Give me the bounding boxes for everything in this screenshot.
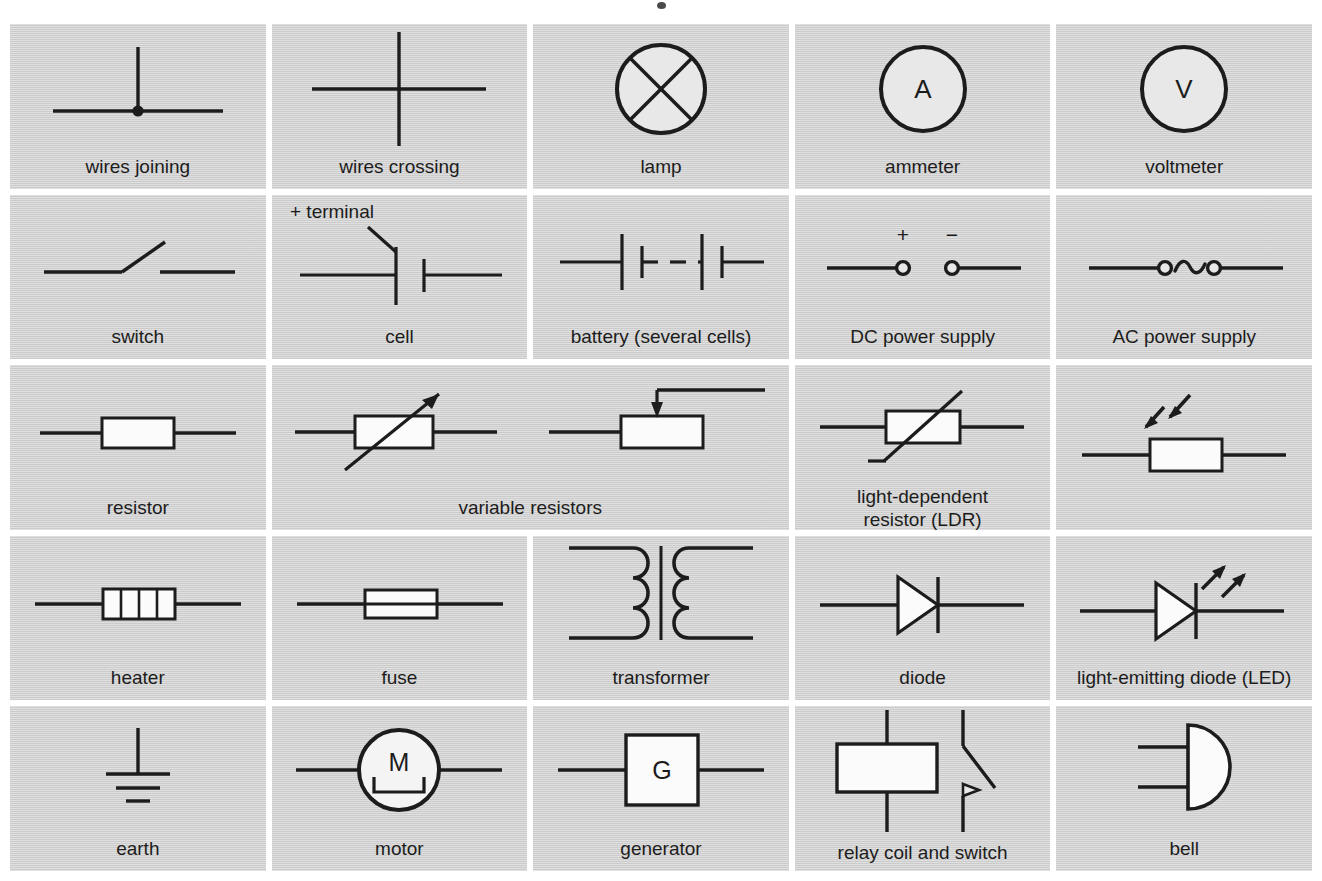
symbol-cell-battery: battery (several cells) [533, 195, 789, 360]
symbol-cell-ac-power-supply: AC power supply [1056, 195, 1312, 360]
symbol-caption: motor [371, 837, 428, 871]
symbol-cell-variable-resistors: variable resistors [272, 365, 789, 530]
bell-icon [1056, 706, 1312, 837]
switch-icon [10, 195, 266, 326]
symbol-caption: ammeter [881, 155, 964, 189]
symbol-cell-ldr [1056, 365, 1312, 530]
minus-sign-label: − [946, 223, 958, 246]
symbol-cell-wires-joining: wires joining [10, 24, 266, 189]
symbol-caption: wires crossing [335, 155, 463, 189]
symbol-cell-resistor: resistor [10, 365, 266, 530]
symbol-caption: voltmeter [1141, 155, 1227, 189]
voltmeter-icon: V [1056, 24, 1312, 155]
symbol-caption: fuse [377, 666, 421, 700]
symbol-caption: earth [112, 837, 163, 871]
symbol-caption: resistor [103, 496, 173, 530]
dc-power-supply-icon: + − [795, 195, 1051, 326]
symbol-cell-thermistor: light-dependent resistor (LDR) [795, 365, 1051, 530]
print-artifact-speck [657, 2, 666, 9]
symbol-cell-heater: heater [10, 536, 266, 701]
symbol-caption: light-emitting diode (LED) [1073, 666, 1295, 700]
generator-letter: G [652, 756, 671, 784]
fuse-icon [272, 536, 528, 667]
earth-icon [10, 706, 266, 837]
plus-terminal-label: + terminal [290, 201, 374, 222]
symbol-caption: bell [1165, 837, 1203, 871]
symbol-cell-voltmeter: V voltmeter [1056, 24, 1312, 189]
symbol-cell-transformer: transformer [533, 536, 789, 701]
plus-sign-label: + [897, 223, 909, 246]
symbol-cell-bell: bell [1056, 706, 1312, 871]
symbol-caption: cell [381, 325, 418, 359]
symbol-cell-relay-coil-and-switch: relay coil and switch [795, 706, 1051, 871]
motor-letter: M [389, 748, 410, 776]
ac-power-supply-icon [1056, 195, 1312, 326]
circuit-symbols-sheet: wires joining wires crossing [0, 0, 1322, 881]
symbol-cell-earth: earth [10, 706, 266, 871]
thermistor-icon [795, 365, 1051, 485]
symbol-cell-ammeter: A ammeter [795, 24, 1051, 189]
symbol-cell-generator: G generator [533, 706, 789, 871]
ammeter-letter: A [914, 74, 932, 104]
symbol-caption: diode [895, 666, 950, 700]
symbol-cell-switch: switch [10, 195, 266, 360]
symbol-caption: generator [616, 837, 705, 871]
wires-joining-icon [10, 24, 266, 155]
symbol-cell-dc-power-supply: + − DC power supply [795, 195, 1051, 360]
symbol-caption: variable resistors [454, 496, 606, 530]
variable-resistor-potentiometer-icon [281, 370, 521, 490]
motor-icon: M [272, 706, 528, 837]
battery-icon [533, 195, 789, 326]
heater-icon [10, 536, 266, 667]
transformer-icon [533, 536, 789, 667]
symbol-cell-wires-crossing: wires crossing [272, 24, 528, 189]
ldr-icon [1056, 365, 1312, 523]
symbol-caption: wires joining [82, 155, 195, 189]
relay-coil-and-switch-icon [795, 706, 1051, 841]
variable-resistors-icon [272, 365, 789, 496]
wires-crossing-icon [272, 24, 528, 155]
symbol-cell-fuse: fuse [272, 536, 528, 701]
diode-icon [795, 536, 1051, 667]
symbol-caption: lamp [636, 155, 685, 189]
symbol-caption: battery (several cells) [567, 325, 756, 359]
symbol-caption: AC power supply [1108, 325, 1260, 359]
symbol-cell-led: light-emitting diode (LED) [1056, 536, 1312, 701]
cell-icon: + terminal [272, 195, 528, 326]
symbol-cell-lamp: lamp [533, 24, 789, 189]
symbol-caption: transformer [608, 666, 713, 700]
resistor-icon [10, 365, 266, 496]
symbol-caption: heater [107, 666, 169, 700]
symbol-caption [1180, 523, 1188, 530]
led-icon [1056, 536, 1312, 667]
symbol-caption: switch [107, 325, 168, 359]
symbol-cell-cell: + terminal cell [272, 195, 528, 360]
symbol-cell-motor: M motor [272, 706, 528, 871]
generator-icon: G [533, 706, 789, 837]
symbol-cell-diode: diode [795, 536, 1051, 701]
variable-resistor-rheostat-icon [539, 370, 779, 490]
ammeter-icon: A [795, 24, 1051, 155]
symbol-caption: light-dependent resistor (LDR) [853, 485, 992, 530]
lamp-icon [533, 24, 789, 155]
symbol-caption: DC power supply [846, 325, 999, 359]
voltmeter-letter: V [1176, 74, 1194, 104]
symbol-caption: relay coil and switch [834, 841, 1012, 871]
symbol-grid: wires joining wires crossing [10, 24, 1312, 871]
